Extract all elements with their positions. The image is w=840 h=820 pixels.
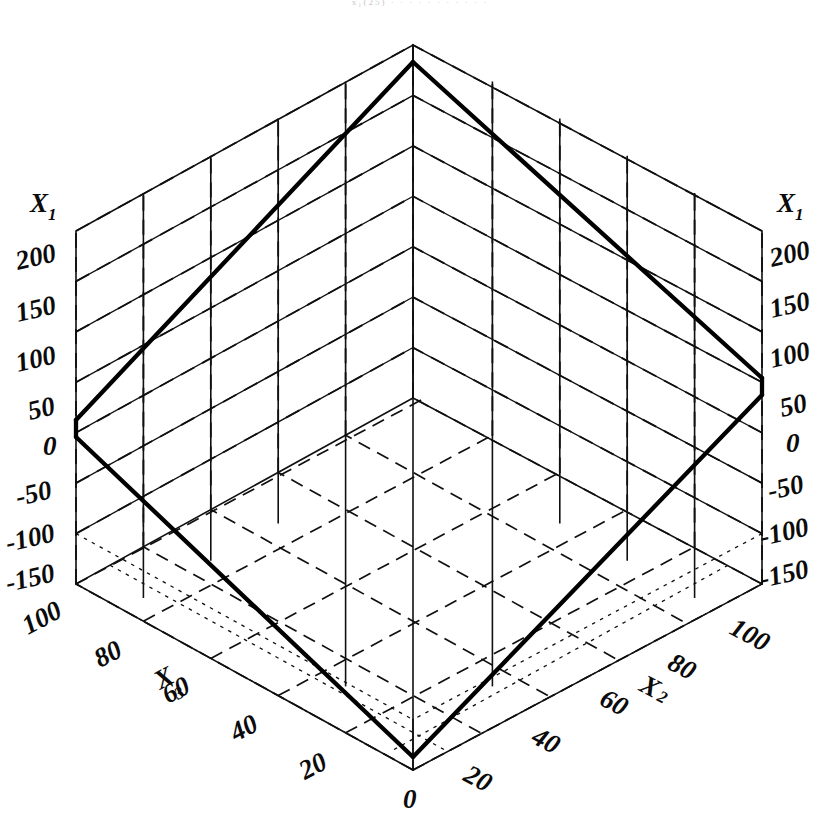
page-header-fragment: x₁(25) · · · · · · · · · · · — [0, 0, 840, 8]
svg-text:1: 1 — [48, 205, 57, 224]
isometric-3d-plot: .thin { stroke:#101010; stroke-width:1.6… — [0, 0, 840, 820]
header-fragment-text: x₁(25) — [352, 0, 387, 7]
svg-text:0: 0 — [786, 428, 800, 458]
svg-text:0: 0 — [43, 431, 57, 461]
origin-label: 0 — [403, 784, 417, 814]
plot-background — [0, 0, 840, 820]
figure-canvas: x₁(25) · · · · · · · · · · · .thin { str… — [0, 0, 840, 820]
svg-text:X: X — [29, 188, 49, 218]
header-fragment-tail: · · · · · · · · · · · — [391, 0, 488, 7]
svg-text:1: 1 — [795, 205, 804, 224]
svg-text:X: X — [776, 188, 796, 218]
